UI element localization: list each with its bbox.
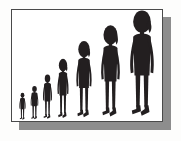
figure-5 (73, 40, 95, 121)
figure-6 (97, 24, 124, 121)
figure-3 (41, 73, 54, 121)
figure-4 (55, 58, 71, 121)
illustration-panel (11, 9, 163, 122)
figure-smallest (18, 92, 27, 121)
illustration-scene (0, 0, 181, 141)
figure-largest (125, 9, 159, 121)
figure-stage (12, 10, 162, 121)
figure-2 (29, 85, 40, 121)
